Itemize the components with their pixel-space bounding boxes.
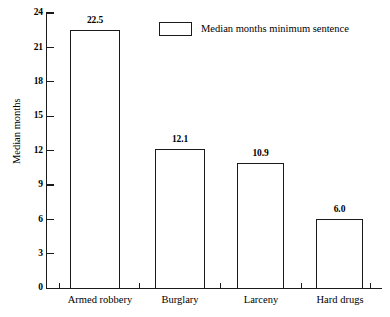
x-tick-mark <box>220 283 221 289</box>
legend-swatch-median-months <box>159 22 192 36</box>
bar-value-label: 22.5 <box>70 16 120 26</box>
bar-armed-robbery[interactable] <box>70 30 120 289</box>
x-tick-mark <box>301 283 302 289</box>
bar-value-label: 10.9 <box>236 149 285 159</box>
x-axis-label-larceny: Larceny <box>222 294 300 306</box>
y-tick-label: 24 <box>13 8 43 18</box>
y-tick-label: 6 <box>13 215 43 225</box>
y-tick-label: 18 <box>13 77 43 87</box>
x-tick-mark <box>139 283 140 289</box>
y-tick-mark <box>47 184 54 185</box>
y-tick-mark <box>47 219 54 220</box>
y-tick-mark <box>47 81 54 82</box>
y-tick-label: 9 <box>13 180 43 190</box>
y-tick-label: 0 <box>13 283 43 293</box>
bar-value-label: 6.0 <box>315 205 364 215</box>
y-tick-label: 21 <box>13 43 43 53</box>
y-tick-label: 3 <box>13 249 43 259</box>
bar-value-label: 12.1 <box>155 135 205 145</box>
y-tick-mark <box>47 116 54 117</box>
bar-larceny[interactable] <box>237 163 284 289</box>
bar-hard-drugs[interactable] <box>316 219 363 289</box>
y-tick-label: 12 <box>13 146 43 156</box>
x-tick-mark <box>59 283 60 289</box>
x-tick-mark <box>370 283 371 289</box>
x-axis-label-hard-drugs: Hard drugs <box>300 294 380 306</box>
bar-burglary[interactable] <box>155 149 205 289</box>
y-tick-mark <box>47 47 54 48</box>
y-tick-mark <box>47 253 54 254</box>
legend-label-median-months: Median months minimum sentence <box>201 24 349 35</box>
y-tick-mark <box>47 12 54 13</box>
bar-chart: Median months 24 21 18 15 12 9 6 3 0 22.… <box>0 0 390 317</box>
y-axis-title: Median months <box>12 81 23 181</box>
y-tick-mark <box>47 150 54 151</box>
x-axis-label-burglary: Burglary <box>140 294 220 306</box>
x-axis-label-armed-robbery: Armed robbery <box>55 294 145 306</box>
chart-legend: Median months minimum sentence <box>159 22 349 36</box>
y-tick-mark <box>47 288 54 289</box>
y-tick-label: 15 <box>13 111 43 121</box>
